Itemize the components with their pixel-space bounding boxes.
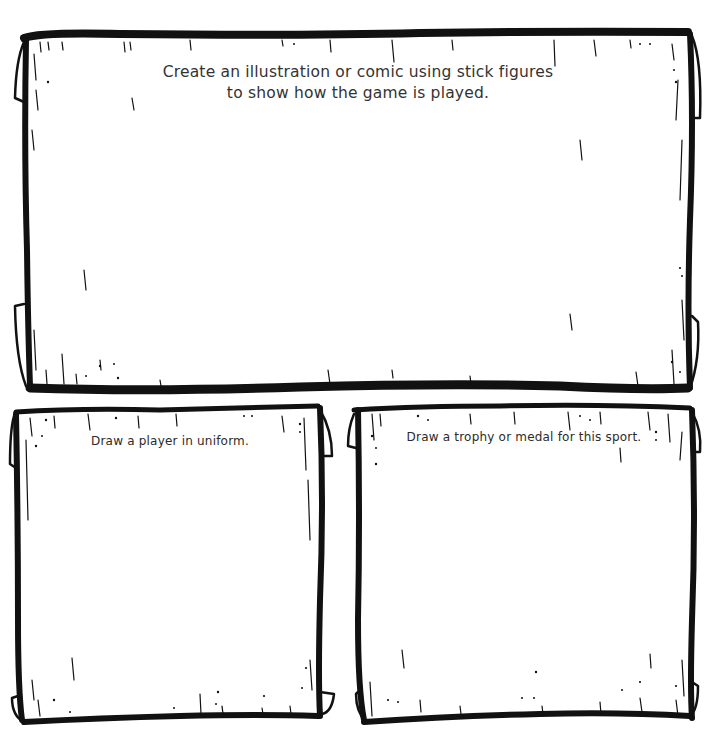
panel-player: Draw a player in uniform. xyxy=(18,410,322,720)
player-drawing-area[interactable] xyxy=(34,460,306,704)
panel-trophy: Draw a trophy or medal for this sport. xyxy=(356,408,692,720)
prompt-comic-line-2: to show how the game is played. xyxy=(22,83,694,104)
trophy-drawing-area[interactable] xyxy=(372,458,676,704)
prompt-comic: Create an illustration or comic using st… xyxy=(22,62,694,104)
prompt-trophy: Draw a trophy or medal for this sport. xyxy=(356,430,692,444)
comic-drawing-area[interactable] xyxy=(38,112,678,374)
prompt-player: Draw a player in uniform. xyxy=(18,434,322,448)
panel-comic: Create an illustration or comic using st… xyxy=(22,34,694,390)
prompt-comic-line-1: Create an illustration or comic using st… xyxy=(22,62,694,83)
